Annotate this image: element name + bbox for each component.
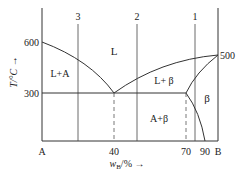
temp-label-500: 500 <box>220 50 235 61</box>
component-a-label: A <box>38 146 46 157</box>
phase-diagram: 3 2 1 600 300 500 T/°C → L L+A L+ β A+β … <box>0 0 238 172</box>
comp-label-90: 90 <box>200 146 210 157</box>
region-beta: β <box>204 92 210 104</box>
comp-label-70: 70 <box>181 146 191 157</box>
alloy-label-2: 2 <box>135 11 140 22</box>
alloy-label-3: 3 <box>76 11 81 22</box>
alloy-label-1: 1 <box>193 11 198 22</box>
comp-label-40: 40 <box>109 146 119 157</box>
region-a-beta: A+β <box>150 113 168 124</box>
solidus-beta <box>186 55 218 93</box>
y-axis-label: T/°C → <box>8 56 19 88</box>
temp-label-300: 300 <box>24 88 39 99</box>
region-liquid: L <box>111 45 118 57</box>
temp-label-600: 600 <box>24 37 39 48</box>
component-b-label: B <box>215 146 222 157</box>
region-liquid-a: L+A <box>51 68 71 79</box>
x-axis-label: wB/% → <box>110 158 145 171</box>
liquidus-b <box>114 55 218 93</box>
region-liquid-beta: L+ β <box>154 75 173 86</box>
solvus-beta <box>186 93 205 141</box>
